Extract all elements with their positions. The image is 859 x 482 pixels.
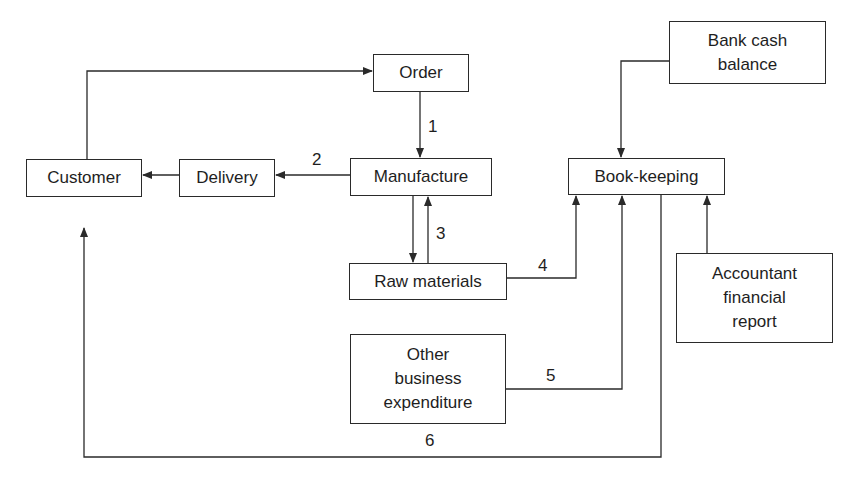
- node-accountant-financial-report: Accountant financial report: [676, 253, 833, 343]
- node-raw-materials-label: Raw materials: [374, 270, 482, 294]
- node-delivery: Delivery: [179, 159, 275, 197]
- node-customer-label: Customer: [47, 166, 121, 190]
- node-book-keeping: Book-keeping: [568, 158, 725, 195]
- node-other-business-expenditure-label: Other business expenditure: [384, 343, 473, 415]
- node-book-keeping-label: Book-keeping: [595, 165, 699, 189]
- edge-label-2: 2: [312, 150, 321, 170]
- node-raw-materials: Raw materials: [349, 263, 507, 300]
- node-other-business-expenditure: Other business expenditure: [350, 334, 506, 424]
- node-bank-cash-balance-label: Bank cash balance: [708, 29, 787, 77]
- edge-label-3: 3: [436, 224, 445, 244]
- node-delivery-label: Delivery: [196, 166, 257, 190]
- node-accountant-financial-report-label: Accountant financial report: [712, 262, 797, 334]
- node-manufacture: Manufacture: [350, 158, 492, 196]
- edge-label-5: 5: [546, 366, 555, 386]
- node-bank-cash-balance: Bank cash balance: [669, 21, 826, 84]
- node-order-label: Order: [399, 61, 442, 85]
- edge-label-1: 1: [428, 117, 437, 137]
- node-manufacture-label: Manufacture: [374, 165, 469, 189]
- edge-label-4: 4: [538, 256, 547, 276]
- node-customer: Customer: [26, 159, 142, 197]
- edge-label-6: 6: [425, 431, 434, 451]
- node-order: Order: [373, 54, 469, 92]
